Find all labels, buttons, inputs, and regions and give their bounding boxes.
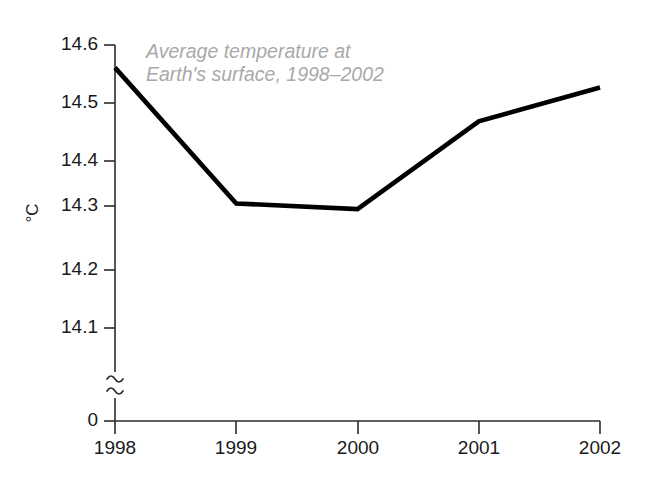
y-axis-group: 14.6 14.5 14.4 14.3 14.2 14.1 0 °C: [23, 33, 123, 430]
annotation-line-2: Earth's surface, 1998–2002: [146, 63, 384, 85]
y-tick-label-14-1: 14.1: [61, 316, 98, 337]
x-tick-label-2000: 2000: [337, 437, 379, 458]
temperature-line-chart: 14.6 14.5 14.4 14.3 14.2 14.1 0 °C 1998 …: [0, 0, 658, 483]
y-axis-break-icon: [107, 376, 123, 394]
y-tick-label-14-5: 14.5: [61, 91, 98, 112]
y-tick-label-14-4: 14.4: [61, 149, 98, 170]
x-tick-label-2001: 2001: [458, 437, 500, 458]
chart-canvas: 14.6 14.5 14.4 14.3 14.2 14.1 0 °C 1998 …: [0, 0, 658, 483]
y-tick-label-0: 0: [87, 409, 98, 430]
chart-annotation: Average temperature at Earth's surface, …: [145, 40, 384, 85]
x-tick-label-1999: 1999: [215, 437, 257, 458]
x-tick-label-2002: 2002: [579, 437, 621, 458]
x-tick-label-1998: 1998: [94, 437, 136, 458]
y-tick-label-14-6: 14.6: [61, 33, 98, 54]
y-axis-title: °C: [23, 203, 42, 222]
annotation-line-1: Average temperature at: [145, 40, 352, 62]
x-axis-group: 1998 1999 2000 2001 2002: [94, 421, 621, 458]
y-tick-label-14-3: 14.3: [61, 194, 98, 215]
temperature-series-line: [115, 68, 600, 210]
y-tick-label-14-2: 14.2: [61, 258, 98, 279]
series-group: [115, 68, 600, 210]
